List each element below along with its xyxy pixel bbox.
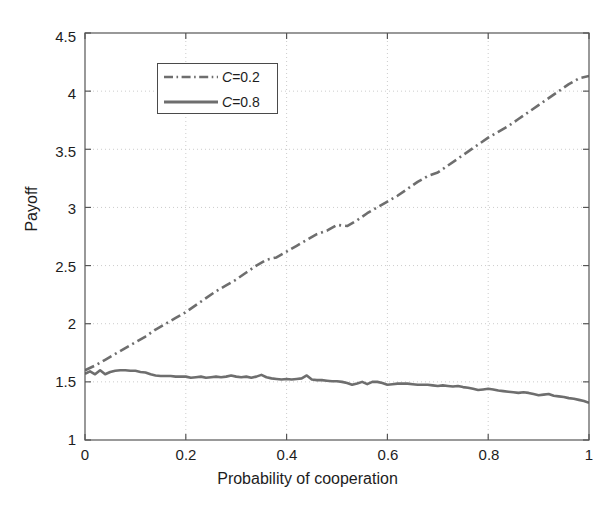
ytick-label: 2 [34, 315, 76, 332]
plot-canvas [0, 0, 615, 509]
ytick-label: 4 [34, 85, 76, 102]
chart-legend: C=0.2 C=0.8 [157, 63, 278, 114]
xtick-label: 0.8 [464, 446, 514, 463]
legend-line-dashdot-icon [163, 70, 219, 84]
ytick-label: 1.5 [34, 373, 76, 390]
legend-symbol-c: C [222, 94, 232, 110]
legend-value-c02: =0.2 [232, 69, 260, 85]
legend-label-c08: C=0.8 [222, 94, 260, 110]
xtick-label: 0.4 [262, 446, 312, 463]
xtick-label: 0.6 [363, 446, 413, 463]
legend-line-solid-icon [163, 95, 219, 109]
legend-entry-c02: C=0.2 [158, 64, 277, 89]
legend-symbol-c: C [222, 69, 232, 85]
xtick-label: 0 [60, 446, 110, 463]
ytick-label: 4.5 [34, 28, 76, 45]
xtick-label: 1 [564, 446, 614, 463]
ytick-label: 1 [34, 431, 76, 448]
x-axis-label: Probability of cooperation [0, 470, 615, 488]
legend-value-c08: =0.8 [232, 94, 260, 110]
y-axis-label: Payoff [23, 149, 41, 269]
legend-entry-c08: C=0.8 [158, 89, 277, 114]
xtick-label: 0.2 [161, 446, 211, 463]
chart-figure: 4.5 4 3.5 3 2.5 2 1.5 1 0 0.2 0.4 0.6 0.… [0, 0, 615, 509]
legend-label-c02: C=0.2 [222, 69, 260, 85]
